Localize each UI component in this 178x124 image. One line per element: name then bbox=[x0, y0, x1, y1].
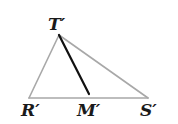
diagram-canvas: T′ R′ M′ S′ bbox=[0, 0, 178, 124]
label-t-prime: T′ bbox=[48, 14, 66, 34]
triangle-figure: T′ R′ M′ S′ bbox=[0, 0, 178, 124]
label-r-prime: R′ bbox=[20, 100, 40, 120]
edge-t-s bbox=[59, 35, 148, 98]
edge-t-r bbox=[29, 35, 59, 98]
label-s-prime: S′ bbox=[140, 100, 157, 120]
label-m-prime: M′ bbox=[76, 100, 101, 120]
median-t-m bbox=[59, 35, 89, 94]
